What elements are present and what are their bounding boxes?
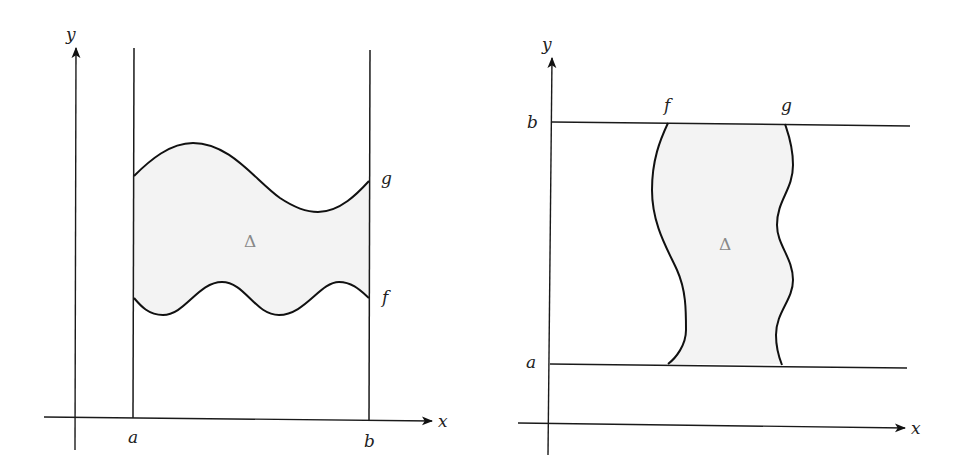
left-x-axis-label: x xyxy=(438,411,448,431)
right-bound-line-a xyxy=(550,364,907,368)
right-bound-label-a: a xyxy=(526,352,536,372)
right-curve-label-f: f xyxy=(662,95,673,115)
right-y-axis-label: y xyxy=(541,34,552,54)
left-curve-label-g: g xyxy=(381,168,392,188)
left-region-delta xyxy=(134,143,369,315)
right-curve-label-g: g xyxy=(781,95,792,115)
left-bound-label-b: b xyxy=(364,431,375,451)
right-y-axis xyxy=(548,58,552,455)
left-bound-line-b xyxy=(369,50,370,421)
left-region-label: Δ xyxy=(244,231,256,251)
left-y-axis xyxy=(75,48,76,450)
right-bound-label-b: b xyxy=(527,112,538,132)
left-bound-label-a: a xyxy=(128,427,138,447)
right-region-label: Δ xyxy=(719,234,731,254)
right-x-axis xyxy=(518,423,905,428)
right-x-axis-label: x xyxy=(911,418,921,438)
diagram-canvas: y x a b g f Δ y x b a f g Δ xyxy=(0,0,959,474)
left-figure: y x a b g f Δ xyxy=(44,24,448,451)
left-curve-label-f: f xyxy=(380,287,391,307)
right-figure: y x b a f g Δ xyxy=(518,34,921,455)
left-y-axis-label: y xyxy=(65,24,76,44)
left-bound-line-a xyxy=(133,48,134,418)
left-x-axis xyxy=(44,417,432,421)
